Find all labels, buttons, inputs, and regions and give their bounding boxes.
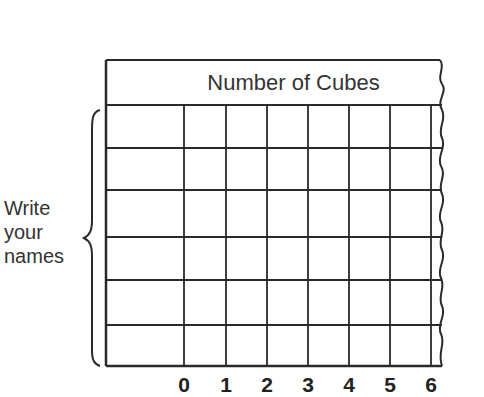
axis-tick-6: 6 bbox=[425, 373, 437, 397]
axis-tick-5: 5 bbox=[384, 373, 396, 397]
axis-tick-2: 2 bbox=[261, 373, 273, 397]
axis-tick-1: 1 bbox=[220, 373, 232, 397]
axis-tick-4: 4 bbox=[343, 373, 355, 397]
axis-tick-3: 3 bbox=[302, 373, 314, 397]
axis-tick-0: 0 bbox=[178, 373, 190, 397]
row-label: Write your names bbox=[4, 196, 64, 268]
header-title: Number of Cubes bbox=[106, 60, 441, 105]
